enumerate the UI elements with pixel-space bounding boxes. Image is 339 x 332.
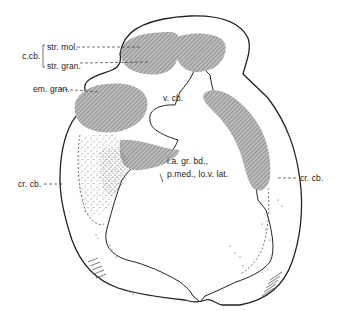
label-em-gran: em. gran. <box>33 85 70 94</box>
label-v-cb: v. cb. <box>163 94 183 103</box>
fibre-tuft-left <box>88 258 106 278</box>
label-str-mol: str. mol. <box>47 43 78 52</box>
leader-i-a-gr-bd <box>160 174 163 182</box>
label-cr-cb-left: cr. cb. <box>18 180 41 189</box>
label-cr-cb-right: cr. cb. <box>300 174 323 183</box>
right-plate-shaded <box>174 34 226 73</box>
label-str-gran: str. gran. <box>47 62 81 71</box>
label-p-med-lo-v-lat: p.med., lo.v. lat. <box>167 170 228 179</box>
label-c-cb: c.cb. <box>22 52 40 61</box>
left-plate-shaded <box>121 32 180 75</box>
label-i-a-gr-bd: i.a. gr. bd., <box>167 157 208 166</box>
scattered-dots <box>95 199 282 294</box>
c-cb-bracket <box>43 45 45 67</box>
crista-boundary-right <box>240 188 269 274</box>
stippled-region-dense <box>100 148 128 196</box>
cerebellum-section-diagram: c.cb. str. mol. str. gran. em. gran. v. … <box>0 0 339 332</box>
